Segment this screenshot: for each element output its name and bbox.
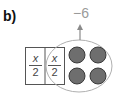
- fraction-cell-2: x 2: [45, 53, 64, 78]
- diagram-graphic: [0, 0, 116, 104]
- numerator: x: [26, 53, 45, 64]
- denominator: 2: [45, 67, 64, 78]
- numerator: x: [45, 53, 64, 64]
- counter-circle: [90, 68, 106, 84]
- denominator: 2: [26, 67, 45, 78]
- counter-circle: [69, 68, 85, 84]
- counter-circle: [69, 47, 85, 63]
- counter-circle: [90, 47, 106, 63]
- fraction-cell-1: x 2: [26, 53, 45, 78]
- arrow-up-icon: [77, 24, 83, 30]
